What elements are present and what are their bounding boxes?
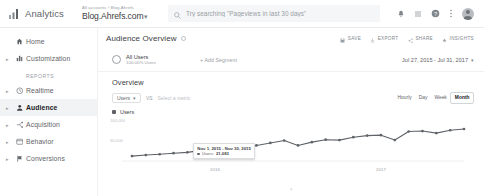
segment-all-users[interactable]: All Users 100.00% Users [126,54,156,66]
analytics-logo[interactable]: Analytics [0,5,78,23]
main-content: Audience Overview SAVE [98,28,484,196]
granularity-month[interactable]: Month [450,92,474,104]
primary-metric-label: Users [117,95,130,101]
chevron-right-icon: ▸ [6,56,13,62]
analytics-app: Analytics All accounts › Blog.Ahrefs Blo… [0,0,484,196]
sidebar-item-conversions[interactable]: ▸ Conversions [0,150,97,167]
insights-button[interactable]: INSIGHTS [442,29,474,47]
chevron-down-icon: ▾ [133,96,136,101]
tooltip-metric-label: Users: [202,151,214,156]
granularity-day[interactable]: Day [415,93,431,103]
overview-title: Overview [98,72,484,87]
sidebar-item-audience[interactable]: ▸ Audience [0,99,97,116]
sidebar-item-home[interactable]: Home [0,33,97,50]
property-selector[interactable]: All accounts › Blog.Ahrefs Blog.Ahrefs.c… [82,5,160,22]
granularity-toggle-group: Hourly Day Week Month [394,92,474,104]
sidebar-item-customization[interactable]: ▸ Customization [0,50,97,67]
granularity-week[interactable]: Week [431,93,450,103]
export-icon [370,29,375,47]
share-label: SHARE [415,36,433,41]
title-info-icon[interactable] [181,36,186,41]
sidebar-item-label: Conversions [26,155,65,162]
vs-label: VS [146,96,152,101]
search-input[interactable]: Try searching "Pageviews in last 30 days… [168,5,380,22]
svg-text:100,000: 100,000 [110,118,126,123]
insights-icon [442,29,447,47]
add-segment-button[interactable]: + Add Segment [200,57,237,63]
save-label: SAVE [348,36,361,41]
chevron-right-icon: ▸ [6,139,13,145]
svg-text:2016: 2016 [210,167,220,172]
sidebar: Home ▸ Customization Reports ▸ [0,28,98,196]
chevron-down-icon: ▾ [471,57,474,63]
user-avatar[interactable] [462,8,474,20]
insights-label: INSIGHTS [450,36,475,41]
svg-text:?: ? [434,11,437,17]
users-line-chart[interactable]: 50,000100,00020162017 Nov 1, 2015 - Nov … [98,116,484,174]
export-label: EXPORT [378,36,399,41]
chart-legend: Users [98,104,484,115]
date-range-picker[interactable]: Jul 27, 2015 - Jul 31, 2017 ▾ [402,57,474,63]
secondary-metric-selector[interactable]: Select a metric [157,95,190,101]
share-button[interactable]: SHARE [408,29,433,47]
search-placeholder: Try searching "Pageviews in last 30 days… [186,10,306,17]
segment-circle-icon [112,55,121,64]
sidebar-item-label: Home [26,38,45,45]
save-button[interactable]: SAVE [340,29,361,47]
segment-bar: All Users 100.00% Users + Add Segment Ju… [98,48,484,72]
home-icon [13,38,26,45]
sidebar-item-realtime[interactable]: ▸ Realtime [0,82,97,99]
tooltip-marker [197,153,200,156]
date-range-text: Jul 27, 2015 - Jul 31, 2017 [402,57,468,63]
bell-icon[interactable] [397,10,405,18]
chevron-right-icon: ▸ [6,122,13,128]
sidebar-section-reports: Reports [0,67,97,82]
top-bar: Analytics All accounts › Blog.Ahrefs Blo… [0,0,484,28]
realtime-clock-icon [13,87,26,95]
top-bar-icons: ? [397,8,484,20]
sidebar-item-label: Audience [26,104,57,111]
sidebar-item-label: Acquisition [26,121,60,128]
analytics-bars-icon [9,5,20,23]
chart-canvas: 50,000100,00020162017 [110,116,474,174]
search-icon [174,5,181,23]
legend-label-users: Users [120,109,134,115]
kebab-menu-icon[interactable] [449,9,453,18]
chevron-down-icon: ▾ [144,13,148,20]
segment-percentage: 100.00% Users [126,60,156,66]
property-name-text: Blog.Ahrefs.com [82,11,144,21]
chart-tooltip: Nov 1, 2015 - Nov 30, 2015 Users: 21,083 [193,143,255,159]
chevron-right-icon: ▸ [6,105,13,111]
save-icon [340,29,345,47]
svg-text:2017: 2017 [376,167,386,172]
page-title: Audience Overview [106,34,177,43]
sidebar-item-label: Behavior [26,138,54,145]
share-icon [408,29,413,47]
property-name: Blog.Ahrefs.com▾ [82,11,160,22]
analytics-logo-text: Analytics [25,8,64,19]
report-actions: SAVE EXPORT [340,29,474,47]
page-header: Audience Overview SAVE [98,28,484,48]
sidebar-item-acquisition[interactable]: ▸ Acquisition [0,116,97,133]
legend-marker-users [112,110,116,114]
chevron-right-icon: ▸ [6,156,13,162]
help-icon[interactable]: ? [431,9,440,18]
apps-grid-icon[interactable] [414,10,422,18]
audience-person-icon [13,104,26,112]
customization-icon [13,55,26,62]
behavior-icon [13,138,26,146]
metric-selector-row: Users ▾ VS Select a metric Hourly Day We… [98,87,484,104]
conversions-flag-icon [13,155,26,163]
primary-metric-selector[interactable]: Users ▾ [112,93,141,103]
export-button[interactable]: EXPORT [370,29,398,47]
sidebar-item-label: Customization [26,55,70,62]
scroll-down-icon[interactable]: ▾ [290,186,293,192]
tooltip-metric-row: Users: 21,083 [197,151,251,156]
svg-text:50,000: 50,000 [110,138,123,143]
sidebar-item-behavior[interactable]: ▸ Behavior [0,133,97,150]
chevron-right-icon: ▸ [6,88,13,94]
tooltip-metric-value: 21,083 [216,151,229,156]
granularity-hourly[interactable]: Hourly [394,93,415,103]
acquisition-icon [13,121,26,129]
sidebar-item-label: Realtime [26,87,54,94]
